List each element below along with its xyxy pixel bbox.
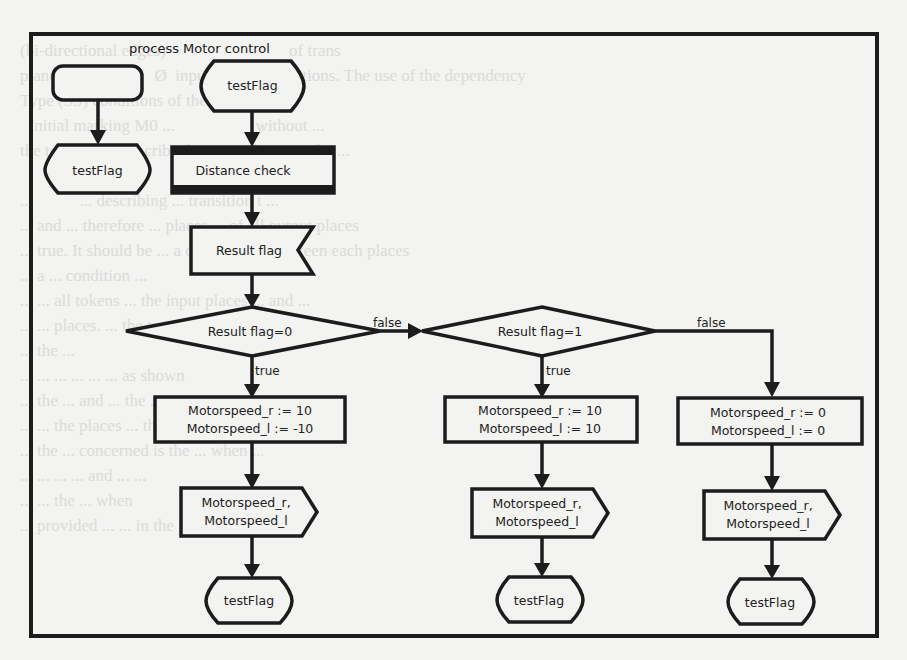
task-motorspeed-stop-line2: Motorspeed_l := 0 <box>711 423 825 438</box>
output-signal-motorspeed-0-line1: Motorspeed_r, <box>201 495 290 510</box>
procedure-distance-check-label: Distance check <box>195 163 291 178</box>
task-motorspeed-stop-line1: Motorspeed_r := 0 <box>710 405 826 420</box>
edge-label-d1-true: true <box>546 364 571 378</box>
arrowhead-icon <box>244 564 260 578</box>
arrowhead-icon <box>764 565 780 579</box>
arrowhead-icon <box>764 476 780 491</box>
state-testflag-end-0-label: testFlag <box>224 593 274 608</box>
procedure-inner-bar-top <box>172 147 334 155</box>
edge-label-d1-false: false <box>697 316 726 330</box>
task-motorspeed-turn-line1: Motorspeed_r := 10 <box>188 403 312 418</box>
state-testflag-end-2-label: testFlag <box>745 595 795 610</box>
arrowhead-icon <box>408 323 423 339</box>
state-testflag-main-label: testFlag <box>227 78 277 93</box>
decision-result-flag-0-label: Result flag=0 <box>208 324 293 339</box>
state-testflag-end-1-label: testFlag <box>514 593 564 608</box>
arrowhead-icon <box>534 563 550 577</box>
arrowhead-icon <box>764 382 780 397</box>
output-signal-motorspeed-1-line2: Motorspeed_l <box>495 514 579 529</box>
output-signal-motorspeed-0-line2: Motorspeed_l <box>204 513 288 528</box>
arrowhead-icon <box>244 132 260 147</box>
connector-d1-false <box>655 331 772 384</box>
arrowhead-icon <box>90 130 106 145</box>
decision-result-flag-1-label: Result flag=1 <box>498 324 583 339</box>
edge-label-d0-false: false <box>373 316 402 330</box>
arrowhead-icon <box>244 212 260 227</box>
output-signal-motorspeed-2-line1: Motorspeed_r, <box>723 498 812 513</box>
flowchart: process Motor control testFlag testFlag … <box>0 0 907 660</box>
task-motorspeed-turn-line2: Motorspeed_l := -10 <box>187 421 314 436</box>
procedure-inner-bar-bottom <box>172 185 334 193</box>
input-signal-result-flag-label: Result flag <box>216 243 282 258</box>
start-symbol[interactable] <box>53 66 142 100</box>
process-title: process Motor control <box>129 41 270 56</box>
output-signal-motorspeed-1-line1: Motorspeed_r, <box>492 496 581 511</box>
output-signal-motorspeed-2-line2: Motorspeed_l <box>726 516 810 531</box>
task-motorspeed-forward-line2: Motorspeed_l := 10 <box>479 421 601 436</box>
edge-label-d0-true: true <box>255 364 280 378</box>
task-motorspeed-forward-line1: Motorspeed_r := 10 <box>478 403 602 418</box>
state-testflag-left-label: testFlag <box>72 163 122 178</box>
arrowhead-icon <box>534 474 550 489</box>
